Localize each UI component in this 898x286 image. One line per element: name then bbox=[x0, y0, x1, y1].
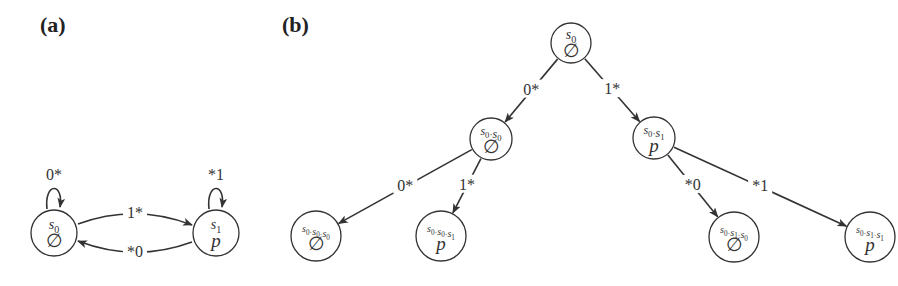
nodes-layer: s0∅s1ps0∅s0·s0∅s0·s1ps0·s0·s0∅s0·s0·s1ps… bbox=[31, 23, 895, 262]
state-prop-label: p bbox=[863, 234, 875, 255]
edge-label: 1* bbox=[459, 176, 475, 193]
state-node-a-s0: s0∅ bbox=[31, 210, 77, 256]
edge-label: 1* bbox=[604, 80, 620, 97]
self-loop-edge bbox=[209, 188, 223, 209]
state-node-a-s1: s1p bbox=[193, 210, 239, 256]
state-node-b-n5: s0·s1·s0∅ bbox=[709, 212, 759, 262]
state-node-b-n1: s0·s0∅ bbox=[470, 118, 512, 160]
edge-label: *1 bbox=[208, 166, 224, 183]
state-node-b-n0: s0∅ bbox=[551, 23, 591, 63]
self-loop-edge bbox=[47, 188, 61, 209]
edge-label: 0* bbox=[46, 166, 62, 183]
state-prop-label: ∅ bbox=[308, 233, 325, 254]
state-prop-label: p bbox=[209, 230, 221, 251]
edge-label: 1* bbox=[127, 204, 143, 221]
state-prop-label: ∅ bbox=[563, 40, 580, 61]
state-diagram-canvas: 0**11**00*1*0*1**0*1 s0∅s1ps0∅s0·s0∅s0·s… bbox=[0, 0, 898, 286]
state-node-b-n6: s0·s1·s1p bbox=[845, 212, 895, 262]
state-prop-label: ∅ bbox=[46, 230, 63, 251]
edge-label: *1 bbox=[752, 177, 768, 194]
edge-label: *0 bbox=[685, 176, 701, 193]
state-prop-label: ∅ bbox=[483, 136, 500, 157]
edge-label: 0* bbox=[523, 81, 539, 98]
state-prop-label: p bbox=[434, 233, 446, 254]
edge-label: 0* bbox=[397, 177, 413, 194]
state-prop-label: p bbox=[647, 135, 659, 156]
state-node-b-n4: s0·s0·s1p bbox=[416, 211, 466, 261]
state-node-b-n2: s0·s1p bbox=[633, 117, 675, 159]
state-prop-label: ∅ bbox=[726, 234, 743, 255]
state-node-b-n3: s0·s0·s0∅ bbox=[291, 211, 341, 261]
edge-label: *0 bbox=[127, 243, 143, 260]
